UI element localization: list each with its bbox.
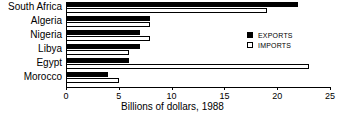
category-label: Libya: [38, 44, 62, 54]
bar-imports: [66, 36, 150, 41]
category-label: Nigeria: [30, 30, 62, 40]
legend-label-imports: IMPORTS: [258, 41, 291, 50]
x-axis-title: Billions of dollars, 1988: [0, 101, 345, 112]
x-tick-label: 15: [219, 91, 229, 101]
bar-exports: [66, 44, 140, 49]
bar-exports: [66, 2, 298, 7]
category-label: South Africa: [8, 2, 62, 12]
category-label: Algeria: [31, 16, 62, 26]
bar-exports: [66, 58, 129, 63]
x-tick-label: 0: [63, 91, 68, 101]
bar-group: [66, 2, 330, 13]
x-tick: [66, 87, 67, 90]
x-tick: [172, 87, 173, 90]
bar-exports: [66, 30, 140, 35]
x-tick: [224, 87, 225, 90]
category-axis-labels: South AfricaAlgeriaNigeriaLibyaEgyptMoro…: [0, 0, 64, 86]
category-label: Egypt: [36, 58, 62, 68]
x-tick-label: 20: [272, 91, 282, 101]
x-axis-line: [66, 87, 331, 88]
bar-imports: [66, 64, 309, 69]
bar-imports: [66, 8, 267, 13]
bar-group: [66, 72, 330, 83]
bar-chart: South AfricaAlgeriaNigeriaLibyaEgyptMoro…: [0, 0, 345, 115]
filled-square-icon: [247, 32, 253, 38]
bar-imports: [66, 78, 119, 83]
outline-square-icon: [247, 42, 253, 48]
bar-imports: [66, 22, 150, 27]
x-tick: [330, 87, 331, 90]
bar-exports: [66, 16, 150, 21]
bar-imports: [66, 50, 129, 55]
bar-group: [66, 16, 330, 27]
x-tick-label: 5: [116, 91, 121, 101]
bar-group: [66, 58, 330, 69]
category-label: Morocco: [24, 72, 62, 82]
x-tick: [119, 87, 120, 90]
x-tick: [277, 87, 278, 90]
legend-label-exports: EXPORTS: [258, 31, 293, 40]
bar-exports: [66, 72, 108, 77]
y-axis-line: [66, 2, 67, 88]
x-tick-label: 10: [167, 91, 177, 101]
x-tick-label: 25: [325, 91, 335, 101]
